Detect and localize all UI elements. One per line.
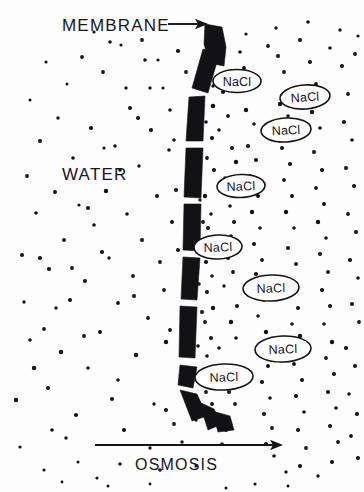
water-molecule-dot — [155, 194, 159, 198]
water-molecule-dot — [156, 58, 159, 61]
water-molecule-dot — [330, 340, 334, 344]
water-molecule-dot — [292, 226, 296, 230]
water-molecule-dot — [203, 194, 207, 198]
water-molecule-dot — [233, 402, 237, 406]
water-molecule-dot — [262, 412, 266, 416]
water-molecule-dot — [332, 372, 336, 376]
water-molecule-dot — [98, 330, 102, 334]
water-molecule-dot — [234, 160, 238, 164]
water-molecule-dot — [344, 166, 348, 170]
osmosis-diagram: NaClNaClNaClNaClNaClNaClNaClNaCl MEMBRAN… — [0, 0, 364, 492]
water-molecule-dot — [47, 267, 51, 271]
water-molecule-dot — [184, 70, 188, 74]
water-molecule-dot — [294, 262, 298, 266]
water-molecule-dot — [196, 344, 200, 348]
water-molecule-dot — [210, 136, 214, 140]
water-molecule-dot — [172, 422, 176, 426]
water-molecule-dot — [322, 322, 326, 326]
water-molecule-dot — [286, 246, 290, 250]
water-molecule-dot — [284, 210, 288, 214]
water-molecule-dot — [338, 28, 341, 31]
water-molecule-dot — [108, 40, 112, 44]
water-molecule-dot — [101, 70, 105, 74]
osmosis-label: OSMOSIS — [135, 456, 218, 473]
water-molecule-dot — [250, 210, 254, 214]
water-molecule-dot — [29, 99, 32, 102]
water-molecule-dot — [83, 279, 87, 283]
water-molecule-dot — [100, 250, 104, 254]
water-molecule-dot — [128, 106, 132, 110]
water-molecule-dot — [14, 398, 18, 402]
water-molecule-dot — [324, 236, 328, 240]
water-molecule-dot — [226, 114, 230, 118]
water-molecule-dot — [64, 436, 67, 439]
water-molecule-dot — [71, 156, 75, 160]
water-molecule-dot — [356, 34, 359, 37]
water-molecule-dot — [167, 148, 171, 152]
water-molecule-dot — [266, 44, 270, 48]
water-molecule-dot — [205, 290, 209, 294]
water-molecule-dot — [292, 362, 296, 366]
water-molecule-dot — [264, 330, 268, 334]
water-molecule-dot — [95, 476, 98, 479]
water-molecule-dot — [168, 108, 172, 112]
water-molecule-dot — [86, 206, 90, 210]
water-molecule-dot — [116, 378, 120, 382]
water-molecule-dot — [25, 174, 29, 178]
water-molecule-dot — [107, 485, 110, 488]
water-molecule-dot — [148, 446, 151, 449]
water-molecule-dot — [18, 445, 21, 448]
water-molecule-dot — [234, 336, 238, 340]
nacl-label: NaCl — [271, 123, 300, 138]
water-molecule-dot — [86, 366, 89, 369]
water-molecule-dot — [176, 49, 180, 53]
water-molecule-dot — [34, 211, 38, 215]
water-molecule-dot — [53, 190, 57, 194]
water-molecule-dot — [357, 320, 361, 324]
water-molecule-dot — [59, 350, 63, 354]
water-molecule-dot — [82, 334, 86, 338]
nacl-label: NaCl — [209, 370, 238, 385]
water-molecule-dot — [326, 270, 330, 274]
water-molecule-dot — [204, 260, 208, 264]
water-molecule-dot — [353, 364, 357, 368]
water-molecule-dot — [204, 390, 208, 394]
water-molecule-dot — [50, 428, 54, 432]
water-molecule-dot — [20, 253, 24, 257]
diagram-background — [0, 0, 364, 492]
water-molecule-dot — [356, 456, 360, 460]
water-molecule-dot — [316, 220, 320, 224]
water-molecule-dot — [298, 38, 302, 42]
nacl-label: NaCl — [223, 75, 252, 89]
water-molecule-dot — [231, 270, 235, 274]
water-molecule-dot — [107, 256, 110, 259]
water-molecule-dot — [274, 26, 277, 29]
water-molecule-dot — [310, 110, 314, 114]
water-molecule-dot — [235, 304, 239, 308]
water-molecule-dot — [272, 454, 276, 458]
water-molecule-dot — [77, 203, 80, 206]
water-molecule-dot — [290, 194, 294, 198]
water-molecule-dot — [32, 366, 36, 370]
water-molecule-dot — [346, 92, 350, 96]
water-molecule-dot — [44, 60, 47, 63]
water-molecule-dot — [222, 284, 225, 287]
water-molecule-dot — [143, 58, 147, 62]
membrane-segment — [181, 257, 200, 300]
water-molecule-dot — [205, 354, 209, 358]
water-molecule-dot — [342, 120, 346, 124]
nacl-label: NaCl — [290, 90, 320, 106]
water-molecule-dot — [140, 238, 144, 242]
water-molecule-dot — [316, 474, 319, 477]
water-molecule-dot — [296, 306, 300, 310]
membrane-segment — [184, 148, 203, 198]
water-molecule-dot — [92, 223, 96, 227]
water-molecule-dot — [312, 150, 316, 154]
water-molecule-dot — [174, 188, 178, 192]
water-molecule-dot — [140, 38, 144, 42]
water-molecule-dot — [211, 104, 216, 109]
water-molecule-dot — [298, 464, 302, 468]
water-molecule-dot — [284, 470, 287, 473]
water-molecule-dot — [280, 146, 284, 150]
water-molecule-dot — [164, 408, 168, 412]
